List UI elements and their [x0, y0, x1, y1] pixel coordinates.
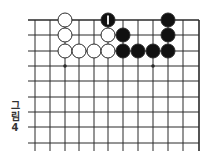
figure-caption: 그 림 4	[8, 100, 22, 133]
black-stone	[161, 13, 175, 27]
white-stone	[58, 28, 72, 42]
caption-number: 4	[8, 122, 22, 133]
black-stone	[161, 44, 175, 58]
black-stone	[101, 13, 115, 27]
black-stone	[131, 44, 145, 58]
white-stone	[101, 44, 115, 58]
go-board	[0, 0, 212, 161]
white-stone	[58, 44, 72, 58]
star-point	[151, 64, 155, 68]
black-stone	[116, 44, 130, 58]
white-stone	[87, 44, 101, 58]
caption-line: 림	[8, 111, 22, 122]
white-stone	[72, 44, 86, 58]
black-stone	[116, 28, 130, 42]
black-stone	[161, 28, 175, 42]
star-point	[63, 64, 67, 68]
move-number-mark	[107, 16, 109, 25]
caption-line: 그	[8, 100, 22, 111]
white-stone	[58, 13, 72, 27]
white-stone	[101, 28, 115, 42]
black-stone	[146, 44, 160, 58]
